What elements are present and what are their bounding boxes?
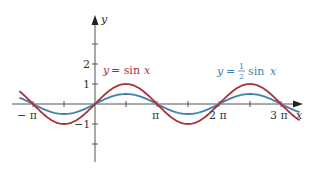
svg-text:x: x — [270, 65, 277, 78]
x-tick-pi: π — [152, 109, 159, 122]
y-tick-1: 1 — [83, 78, 90, 91]
y-axis-arrow-icon — [92, 15, 99, 25]
x-tick-3pi: 3 π — [270, 109, 288, 122]
svg-text:sin: sin — [248, 65, 264, 78]
x-tick-2pi: 2 π — [209, 109, 227, 122]
sine-label: y = sin x — [102, 64, 151, 77]
svg-text:= sin: = sin — [111, 64, 140, 77]
y-tick-neg1: −1 — [74, 118, 90, 131]
svg-text:=: = — [226, 65, 235, 78]
svg-text:x: x — [144, 64, 151, 77]
svg-text:1: 1 — [239, 62, 244, 71]
half-sine-label: y = 1 2 sin x — [216, 62, 277, 81]
x-axis-arrow-icon — [293, 101, 303, 108]
axes — [12, 22, 296, 162]
x-tick-neg-pi: − π — [17, 109, 37, 122]
svg-text:y: y — [102, 64, 110, 77]
svg-text:y: y — [216, 65, 224, 78]
sine-chart: − π π 2 π 3 π 2 1 −1 y x y = sin x y = 1… — [0, 0, 310, 171]
y-tick-2: 2 — [83, 58, 90, 71]
svg-text:2: 2 — [239, 72, 244, 81]
x-axis-label: x — [296, 109, 303, 122]
y-axis-label: y — [100, 13, 108, 26]
